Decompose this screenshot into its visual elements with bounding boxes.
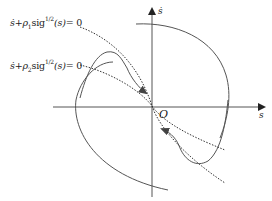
inner-trajectory-upper [80, 52, 146, 98]
eq1-exponent: 1/2 [45, 15, 54, 22]
phase-portrait-diagram [0, 0, 272, 201]
inner-trajectory-lower [162, 100, 228, 164]
origin-label: O [159, 108, 168, 121]
eq2-exp-den: 2 [50, 58, 54, 65]
equation-surface-2: ṡ+ρ2sig1/2(s)= 0 [10, 59, 82, 73]
s-dot-axis-label: ṡ [158, 6, 163, 16]
eq2-exponent: 1/2 [45, 58, 54, 65]
eq2-exp-num: 1 [45, 58, 49, 65]
eq1-exp-den: 2 [50, 15, 54, 22]
eq1-fn: sig [31, 17, 44, 28]
eq1-exp-num: 1 [45, 15, 49, 22]
eq2-rhs: = 0 [66, 60, 82, 71]
eq2-arg: (s) [54, 60, 66, 71]
equation-surface-1: ṡ+ρ1sig1/2(s)= 0 [10, 16, 82, 30]
eq2-fn: sig [31, 60, 44, 71]
eq1-rhs: = 0 [66, 17, 82, 28]
s-axis-label: s [259, 110, 264, 120]
eq1-arg: (s) [54, 17, 66, 28]
